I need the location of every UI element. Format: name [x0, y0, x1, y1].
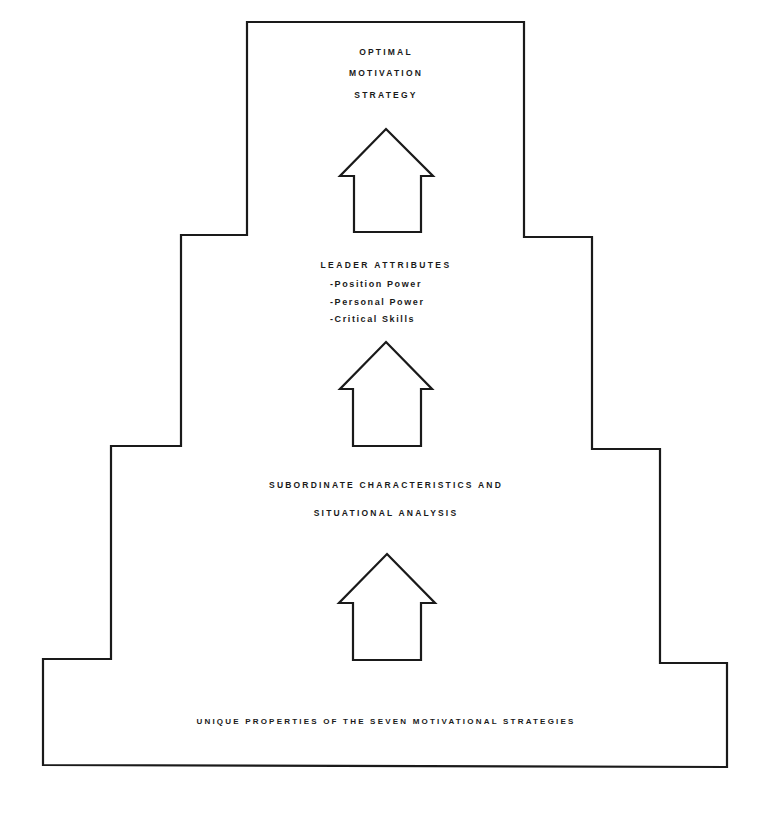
tier-top-line-2: MOTIVATION: [286, 68, 486, 78]
tier-subordinate-line-2: SITUATIONAL ANALYSIS: [200, 508, 572, 518]
tier-subordinate-line-1: SUBORDINATE CHARACTERISTICS AND: [200, 480, 572, 490]
tier-leader-title: LEADER ATTRIBUTES: [286, 260, 486, 270]
tier-base-line-1: UNIQUE PROPERTIES OF THE SEVEN MOTIVATIO…: [100, 717, 672, 726]
arrow-up-icon: [339, 554, 435, 660]
diagram-outline: [0, 0, 768, 820]
arrow-up-icon: [340, 342, 432, 446]
arrow-up-icon: [340, 129, 433, 232]
tier-leader-bullet-3: -Critical Skills: [330, 314, 415, 324]
stepped-pyramid-diagram: OPTIMAL MOTIVATION STRATEGY LEADER ATTRI…: [0, 0, 768, 820]
tier-top-line-3: STRATEGY: [286, 90, 486, 100]
tier-leader-bullet-2: -Personal Power: [330, 297, 425, 307]
pyramid-outline: [43, 22, 727, 767]
tier-leader-bullet-1: -Position Power: [330, 279, 422, 289]
tier-top-line-1: OPTIMAL: [286, 47, 486, 57]
